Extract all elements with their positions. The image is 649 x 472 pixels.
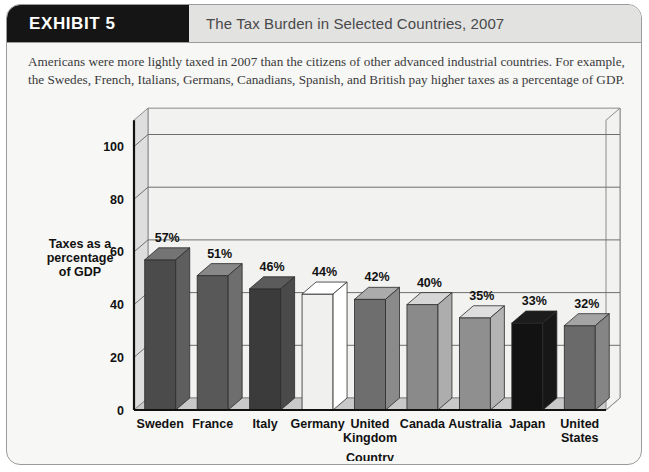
bar-front-face [459, 318, 490, 410]
bar-front-face [407, 305, 438, 410]
x-tick-label: United [560, 417, 599, 431]
x-tick-label: Italy [253, 417, 278, 431]
bar-value-label: 44% [312, 265, 337, 279]
chart-canvas: 020406080100 57%51%46%44%42%40%35%33%32%… [7, 101, 642, 461]
bar[interactable] [564, 314, 609, 410]
exhibit-header: EXHIBIT 5 The Tax Burden in Selected Cou… [7, 5, 642, 43]
x-tick-label: Kingdom [343, 431, 397, 445]
x-tick-label: Australia [448, 417, 503, 431]
bar-side-face [386, 287, 400, 410]
bar-value-label: 40% [417, 276, 442, 290]
y-axis-title: of GDP [59, 265, 101, 279]
bar-front-face [564, 326, 595, 410]
bar-front-face [302, 294, 333, 410]
y-tick-label: 80 [110, 193, 124, 207]
bar[interactable] [197, 264, 242, 410]
x-tick-label: Japan [509, 417, 545, 431]
bar[interactable] [459, 306, 504, 410]
bar-value-label: 33% [522, 294, 547, 308]
bar[interactable] [250, 277, 295, 410]
bar-value-label: 46% [260, 260, 285, 274]
bar[interactable] [355, 287, 400, 410]
y-axis-tick-labels: 020406080100 [103, 140, 124, 418]
x-tick-label: Sweden [137, 417, 184, 431]
exhibit-number-badge: EXHIBIT 5 [7, 5, 189, 42]
bar[interactable] [407, 293, 452, 410]
bar-front-face [250, 289, 281, 410]
bar-value-label: 42% [364, 270, 389, 284]
bar-side-face [490, 306, 504, 410]
y-tick-label: 40 [110, 298, 124, 312]
bar-front-face [355, 299, 386, 410]
bar-value-label: 32% [574, 297, 599, 311]
bar-side-face [438, 293, 452, 410]
x-axis-tick-labels: SwedenFranceItalyGermanyUnitedKingdomCan… [137, 417, 600, 445]
bar-side-face [228, 264, 242, 410]
x-tick-label: France [192, 417, 233, 431]
bar-side-face [543, 311, 557, 410]
bar-front-face [145, 260, 176, 410]
bar-value-label: 57% [155, 231, 180, 245]
y-tick-label: 100 [103, 140, 124, 154]
bar-side-face [333, 282, 347, 410]
bar-chart: 020406080100 57%51%46%44%42%40%35%33%32%… [7, 101, 642, 461]
bar-value-label: 35% [469, 289, 494, 303]
bar[interactable] [302, 282, 347, 410]
exhibit-caption: Americans were more lightly taxed in 200… [28, 53, 628, 88]
exhibit-card: EXHIBIT 5 The Tax Burden in Selected Cou… [6, 4, 642, 465]
bar[interactable] [145, 248, 190, 410]
y-tick-label: 20 [110, 351, 124, 365]
x-tick-label: Canada [400, 417, 446, 431]
bar-side-face [595, 314, 609, 410]
bar-side-face [176, 248, 190, 410]
exhibit-title: The Tax Burden in Selected Countries, 20… [206, 5, 504, 42]
x-tick-label: States [561, 431, 599, 445]
y-axis-title: percentage [47, 251, 114, 265]
bar-front-face [512, 323, 543, 410]
bar-side-face [281, 277, 295, 410]
bar-value-label: 51% [207, 247, 232, 261]
y-axis-title: Taxes as a [49, 237, 112, 251]
bar[interactable] [512, 311, 557, 410]
y-tick-label: 0 [117, 404, 124, 418]
bar-front-face [197, 276, 228, 410]
x-tick-label: Germany [290, 417, 344, 431]
x-tick-label: United [351, 417, 390, 431]
x-axis-title: Country [346, 451, 394, 461]
